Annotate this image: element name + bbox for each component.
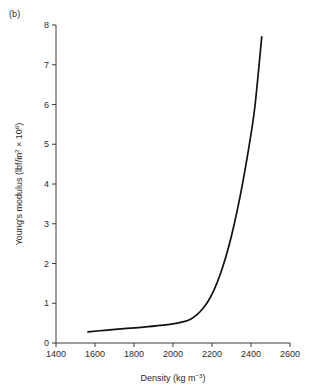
y-tick-label: 6 xyxy=(44,100,49,110)
x-tick-label: 1400 xyxy=(46,349,66,359)
y-tick-label: 7 xyxy=(44,60,49,70)
y-tick-label: 2 xyxy=(44,259,49,269)
y-tick-label: 3 xyxy=(44,219,49,229)
data-series-line xyxy=(88,37,262,332)
x-tick-label: 2600 xyxy=(280,349,300,359)
x-tick-label: 2000 xyxy=(163,349,183,359)
chart-canvas: 1400160018002000220024002600 012345678 D… xyxy=(0,0,310,392)
x-tick-label: 1600 xyxy=(85,349,105,359)
y-tick-label: 4 xyxy=(44,179,49,189)
x-axis-ticks: 1400160018002000220024002600 xyxy=(46,343,300,359)
x-axis-title: Density (kg m−3) xyxy=(140,372,205,383)
y-tick-label: 8 xyxy=(44,20,49,30)
figure-panel-b: (b) 1400160018002000220024002600 0123456… xyxy=(0,0,310,392)
x-tick-label: 2400 xyxy=(241,349,261,359)
axis-lines xyxy=(56,25,290,343)
y-tick-label: 5 xyxy=(44,139,49,149)
y-axis-title: Young's modulus (lbf/in2 × 106) xyxy=(13,123,24,246)
y-tick-label: 0 xyxy=(44,338,49,348)
x-tick-label: 1800 xyxy=(124,349,144,359)
y-axis-ticks: 012345678 xyxy=(44,20,56,348)
y-tick-label: 1 xyxy=(44,298,49,308)
x-tick-label: 2200 xyxy=(202,349,222,359)
